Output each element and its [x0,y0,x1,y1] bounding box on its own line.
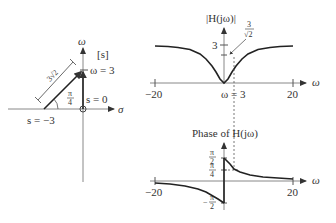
ytick-label-den: 4 [210,170,214,179]
annotation-num: 3 [247,20,251,29]
mag-xtick-neg20: −20 [145,88,163,100]
ytick-label-sign: − [203,198,208,207]
sigma-axis-label: σ [118,103,124,115]
plane-label: [s] [97,48,109,60]
ytick-label-num: π [210,161,214,170]
ytick-label-den: 2 [210,202,214,211]
pole-zero-plot: σ ω [s] ω = 3 s = 0 s = −3 π 4 3√2 [8,35,124,182]
phase-plot: ω Phase of H(jω) −20 20 π 2 π 4 − π 2 [145,127,320,211]
mag-xtick-pos20: 20 [287,88,299,100]
mag-title: |H(jω)| [206,12,236,25]
ytick-label-num: π [210,148,214,157]
mag-ytick-3: 3 [212,39,218,51]
angle-label-num: π [68,89,72,98]
annotation-arrow [230,39,246,54]
magnitude-plot: ω |H(jω)| −20 20 3 ω = 3 3 √2 [145,12,320,170]
annotation-den: √2 [244,30,252,39]
vector-length-label: 3√2 [45,68,60,83]
phase-title: Phase of H(jω) [192,127,258,140]
omega-axis-label: ω [78,35,86,47]
mag-marker-label: ω = 3 [221,88,246,100]
omega3-label: ω = 3 [90,64,115,76]
phase-xtick-pos20: 20 [287,186,299,198]
phase-x-axis-label: ω [312,174,320,186]
zero-label: s = 0 [86,93,108,105]
figure-canvas: σ ω [s] ω = 3 s = 0 s = −3 π 4 3√2 ω |H(… [0,0,336,223]
pole-label: s = −3 [27,114,55,126]
mag-x-axis-label: ω [312,76,320,88]
angle-arc [54,99,58,109]
angle-label-den: 4 [68,98,72,107]
phase-xtick-neg20: −20 [145,186,163,198]
